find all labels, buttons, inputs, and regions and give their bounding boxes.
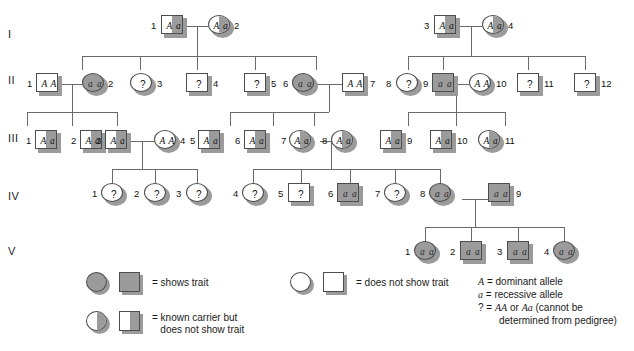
individual-I-1[interactable]: Aa (161, 15, 187, 37)
drop-IV-3 (197, 169, 198, 183)
individual-II-3[interactable]: ? (130, 73, 156, 95)
individual-II-7[interactable]: AA (342, 73, 368, 95)
individual-III-5[interactable]: Aa (198, 130, 224, 152)
individual-IV-2[interactable]: ? (144, 183, 170, 205)
individual-number-IV-3: 3 (176, 188, 181, 199)
individual-III-4[interactable]: AA (154, 130, 180, 152)
individual-number-IV-4: 4 (233, 188, 238, 199)
individual-I-3[interactable]: Aa (434, 15, 460, 37)
individual-number-V-2: 2 (450, 246, 455, 257)
sibship-bar-V (425, 227, 564, 228)
drop-III-5 (230, 112, 231, 126)
drop-III-7 (314, 112, 315, 126)
drop-III-3 (117, 112, 118, 126)
genotype-label: aa (460, 241, 486, 263)
genotype-label: ? (186, 183, 212, 205)
legend-carrier-circle (86, 311, 112, 335)
drop-V-1 (425, 227, 426, 241)
genotype-label: Aa (482, 15, 508, 37)
individual-IV-1[interactable]: ? (101, 183, 127, 205)
legend-carrier-label: = known carrier but (152, 312, 237, 324)
individual-number-II-4: 4 (213, 78, 218, 89)
individual-number-II-3: 3 (157, 78, 162, 89)
descent-line-IV8-IV9 (475, 199, 476, 227)
individual-number-II-11: 11 (544, 78, 554, 89)
drop-II-5 (255, 56, 256, 70)
individual-V-4[interactable]: aa (553, 241, 579, 263)
genotype-label: Aa (35, 130, 61, 152)
individual-IV-3[interactable]: ? (186, 183, 212, 205)
genotype-label: aa (488, 183, 514, 205)
individual-II-10[interactable]: AA (469, 73, 495, 95)
symbol-body (86, 311, 107, 331)
individual-IV-8[interactable]: aa (429, 183, 455, 205)
individual-number-II-8: 8 (386, 78, 391, 89)
individual-II-2[interactable]: aa (82, 73, 108, 95)
individual-IV-7[interactable]: ? (384, 183, 410, 205)
drop-IV-2 (155, 169, 156, 183)
individual-V-3[interactable]: aa (507, 241, 533, 263)
allele-dominant-text: = dominant allele (484, 276, 563, 287)
genotype-label: ? (101, 183, 127, 205)
individual-number-III-9: 9 (407, 135, 412, 146)
individual-V-2[interactable]: aa (460, 241, 486, 263)
individual-II-4[interactable]: ? (186, 73, 212, 95)
genotype-label: AA (154, 130, 180, 152)
drop-II-9 (443, 56, 444, 70)
individual-II-5[interactable]: ? (244, 73, 270, 95)
genotype-label: Aa (289, 130, 315, 152)
individual-number-I-2: 2 (234, 20, 239, 31)
individual-III-1[interactable]: Aa (35, 130, 61, 152)
genotype-label: aa (414, 241, 440, 263)
genotype-label: Aa (434, 15, 460, 37)
drop-II-11 (528, 56, 529, 70)
individual-III-6[interactable]: Aa (244, 130, 270, 152)
individual-I-4[interactable]: Aa (482, 15, 508, 37)
symbol-body (323, 272, 344, 292)
drop-IV-5 (301, 169, 302, 183)
individual-II-6[interactable]: aa (292, 73, 318, 95)
individual-number-I-1: 1 (151, 20, 156, 31)
individual-IV-6[interactable]: aa (337, 183, 363, 205)
individual-II-12[interactable]: ? (574, 73, 600, 95)
drop-III-9 (408, 112, 409, 126)
individual-V-1[interactable]: aa (414, 241, 440, 263)
individual-III-8[interactable]: Aa (331, 130, 357, 152)
genotype-label: ? (242, 183, 268, 205)
pedigree-figure: I II III IV V (0, 0, 634, 351)
individual-number-IV-8: 8 (420, 188, 425, 199)
legend-unaffected-circle (290, 272, 316, 296)
drop-III-6 (273, 112, 274, 126)
genotype-label: aa (292, 73, 318, 95)
drop-III-1 (27, 112, 28, 126)
individual-IV-9[interactable]: aa (488, 183, 514, 205)
individual-number-II-6: 6 (283, 78, 288, 89)
legend-affected-square (119, 272, 145, 296)
genotype-label: Aa (380, 130, 406, 152)
genotype-label: AA (342, 73, 368, 95)
individual-number-V-3: 3 (497, 246, 502, 257)
individual-II-11[interactable]: ? (517, 73, 543, 95)
legend-does-not-show-trait-label: = does not show trait (356, 277, 449, 289)
individual-II-8[interactable]: ? (396, 73, 422, 95)
generation-label-IV: IV (8, 190, 19, 202)
individual-I-2[interactable]: Aa (208, 15, 234, 37)
individual-number-IV-6: 6 (328, 188, 333, 199)
individual-number-III-5: 5 (190, 135, 195, 146)
individual-III-3[interactable]: Aa (105, 130, 131, 152)
genotype-label: Aa (331, 130, 357, 152)
individual-IV-5[interactable]: ? (288, 183, 314, 205)
individual-number-III-11: 11 (505, 135, 515, 146)
individual-III-11[interactable]: Aa (478, 130, 504, 152)
individual-II-9[interactable]: aa (432, 73, 458, 95)
individual-II-1[interactable]: AA (36, 73, 62, 95)
individual-III-10[interactable]: Aa (430, 130, 456, 152)
genotype-label: Aa (244, 130, 270, 152)
genotype-label: aa (82, 73, 108, 95)
individual-IV-4[interactable]: ? (242, 183, 268, 205)
individual-III-7[interactable]: Aa (289, 130, 315, 152)
genotype-Aa: Aa (522, 302, 533, 313)
drop-V-3 (518, 227, 519, 241)
individual-III-9[interactable]: Aa (380, 130, 406, 152)
individual-III-2[interactable]: Aa (80, 130, 106, 152)
